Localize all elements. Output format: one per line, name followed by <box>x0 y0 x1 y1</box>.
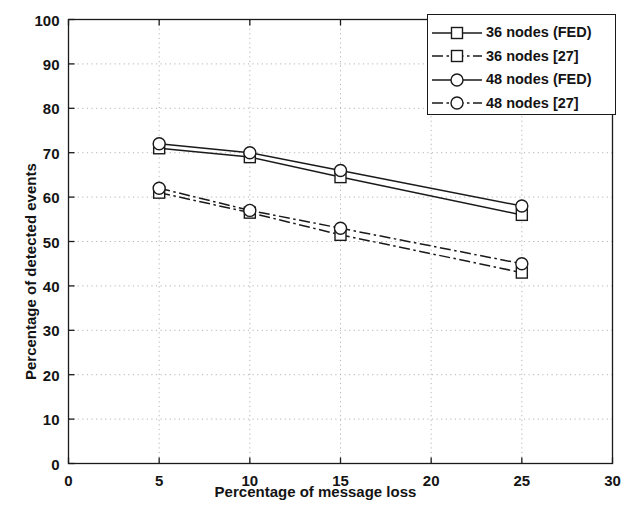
x-tick-label: 0 <box>64 472 72 489</box>
legend-marker-square <box>452 27 463 38</box>
y-tick-label: 20 <box>43 366 60 383</box>
y-tick-label: 90 <box>43 55 60 72</box>
legend-line-sample <box>428 91 486 115</box>
y-tick-label: 40 <box>43 277 60 294</box>
x-axis-title: Percentage of message loss <box>0 483 631 500</box>
y-tick-label: 60 <box>43 189 60 206</box>
legend-line-sample <box>428 44 486 68</box>
legend-line-sample <box>428 68 486 92</box>
legend-item-1: 36 nodes [27] <box>428 44 617 69</box>
x-tick-label: 10 <box>241 472 258 489</box>
x-tick-label: 20 <box>423 472 440 489</box>
y-tick-label: 80 <box>43 100 60 117</box>
legend-marker-square <box>452 51 463 62</box>
legend-marker-circle <box>451 97 463 109</box>
legend-item-label: 36 nodes [27] <box>486 49 579 64</box>
legend-item-0: 36 nodes (FED) <box>428 20 617 45</box>
data-point-marker <box>516 258 528 270</box>
x-tick-label: 30 <box>604 472 621 489</box>
legend-item-3: 48 nodes [27] <box>428 91 617 116</box>
data-point-marker <box>153 138 165 150</box>
y-tick-label: 30 <box>43 322 60 339</box>
legend-item-label: 48 nodes [27] <box>486 96 579 111</box>
data-point-marker <box>335 222 347 234</box>
legend-item-2: 48 nodes (FED) <box>428 67 617 92</box>
data-point-marker <box>244 147 256 159</box>
x-tick-label: 15 <box>332 472 349 489</box>
y-tick-label: 50 <box>43 233 60 250</box>
y-axis-title: Percentage of detected events <box>22 163 39 380</box>
data-point-marker <box>516 200 528 212</box>
x-tick-label: 25 <box>513 472 530 489</box>
legend-marker-circle <box>451 74 463 86</box>
data-series-layer <box>153 138 528 278</box>
data-point-marker <box>335 164 347 176</box>
legend-line-sample <box>428 21 486 45</box>
y-tick-label: 70 <box>43 144 60 161</box>
data-point-marker <box>244 204 256 216</box>
y-tick-label: 100 <box>34 11 59 28</box>
legend-item-label: 36 nodes (FED) <box>486 25 592 40</box>
data-point-marker <box>153 182 165 194</box>
chart-figure: Percentage of detected events Percentage… <box>0 0 631 508</box>
chart-legend: 36 nodes (FED)36 nodes [27]48 nodes (FED… <box>427 14 616 115</box>
legend-item-label: 48 nodes (FED) <box>486 72 592 87</box>
y-tick-label: 0 <box>51 455 59 472</box>
x-tick-label: 5 <box>155 472 163 489</box>
y-tick-label: 10 <box>43 411 60 428</box>
